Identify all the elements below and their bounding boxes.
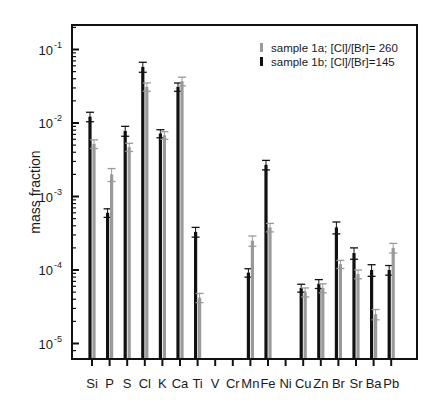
x-tick-label: Pb [383,376,399,391]
x-tick-label: K [158,376,167,391]
bar [264,165,267,359]
bar [176,87,179,359]
bar [304,292,307,359]
legend-label: sample 1b; [Cl]/[Br]=145 [271,56,395,68]
legend: sample 1a; [Cl]/[Br]= 260sample 1b; [Cl]… [260,42,398,68]
y-tick-label: 10 [39,43,53,58]
y-tick-label: 10 [39,337,53,352]
bar [106,213,109,359]
x-tick-label: S [123,376,132,391]
y-tick-label: 10 [39,116,53,131]
x-tick-label: Ca [172,376,189,391]
bar [124,131,127,359]
x-tick-label: Cl [139,376,151,391]
bar [388,270,391,359]
x-tick-label: Sr [350,376,364,391]
x-tick-label: Cu [295,376,312,391]
y-tick-exponent: -2 [54,113,62,123]
legend-swatch [260,57,263,66]
bar [251,241,254,359]
x-tick-label: Ba [366,376,383,391]
y-tick-exponent: -1 [54,40,62,50]
bar [180,81,183,359]
bar-chart: SiPSClKCaTiVCrMnFeNiCuZnBrSrBaPb 10-110-… [0,0,442,409]
x-tick-label: V [211,376,220,391]
legend-swatch [260,43,263,52]
bar [356,274,359,359]
x-tick-label: Mn [241,376,259,391]
bar [317,284,320,359]
bar [110,174,113,359]
bar [88,117,91,359]
bar [92,144,95,359]
x-tick-label: Br [332,376,346,391]
bar [374,314,377,359]
bar [392,248,395,359]
bar [352,253,355,359]
x-tick-label: Si [86,376,98,391]
x-axis: SiPSClKCaTiVCrMnFeNiCuZnBrSrBaPb [86,359,399,391]
bar [128,147,131,359]
y-tick-exponent: -4 [54,260,62,270]
bar [339,264,342,359]
x-tick-label: Cr [226,376,240,391]
bar [163,135,166,359]
bar [194,232,197,359]
x-tick-label: Fe [260,376,275,391]
bar [268,227,271,359]
bar [247,273,250,359]
bar [198,298,201,359]
bar [141,67,144,359]
bar [300,288,303,359]
x-tick-label: P [105,376,114,391]
legend-label: sample 1a; [Cl]/[Br]= 260 [271,42,398,54]
bar [321,288,324,359]
y-tick-exponent: -5 [54,334,62,344]
y-axis-label: mass fraction [27,150,43,233]
bar [370,270,373,359]
bars [86,62,397,359]
x-tick-label: Ni [279,376,291,391]
y-tick-label: 10 [39,263,53,278]
bar [159,133,162,359]
bar [145,87,148,359]
x-tick-label: Ti [192,376,202,391]
x-tick-label: Zn [313,376,328,391]
y-tick-exponent: -3 [54,187,62,197]
bar [335,227,338,359]
